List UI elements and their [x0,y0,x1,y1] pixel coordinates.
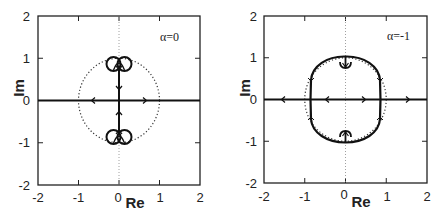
alpha-annotation: α=0 [160,30,179,44]
y-tick-label: 1 [23,51,30,66]
y-tick-label: -2 [18,178,30,193]
alpha-annotation: α=-1 [387,29,410,43]
y-tick-label: -1 [245,134,257,149]
chart-panel-alpha-0: 2 1 0 -1 -2 -2 -1 0 1 2 Re Im α=0 [0,0,222,217]
x-tick-label: 2 [423,189,430,204]
x-tick-label: -1 [73,190,85,205]
plot-alpha-minus-1: 2 1 0 -1 -2 -2 -1 0 1 2 Re Im α=-1 [222,0,444,217]
y-axis-label: Im [10,79,27,97]
y-tick-label: 1 [250,50,257,65]
x-tick-label: -2 [258,189,270,204]
x-tick-label: 0 [114,190,121,205]
x-tick-label: -2 [32,190,44,205]
y-tick-label: -2 [245,176,257,191]
x-tick-label: 0 [340,187,347,202]
plot-alpha-0: 2 1 0 -1 -2 -2 -1 0 1 2 Re Im α=0 [0,0,222,217]
x-tick-label: 1 [383,189,390,204]
y-tick-label: -1 [18,135,30,150]
x-tick-label: -1 [299,189,311,204]
chart-panel-alpha-minus-1: 2 1 0 -1 -2 -2 -1 0 1 2 Re Im α=-1 [222,0,444,217]
y-tick-label: 2 [250,9,257,24]
x-tick-label: 2 [196,190,203,205]
x-axis-label: Re [125,194,144,211]
y-axis-label: Im [236,79,253,97]
x-axis-label: Re [351,193,370,210]
x-tick-label: 1 [156,190,163,205]
y-tick-label: 2 [23,9,30,24]
